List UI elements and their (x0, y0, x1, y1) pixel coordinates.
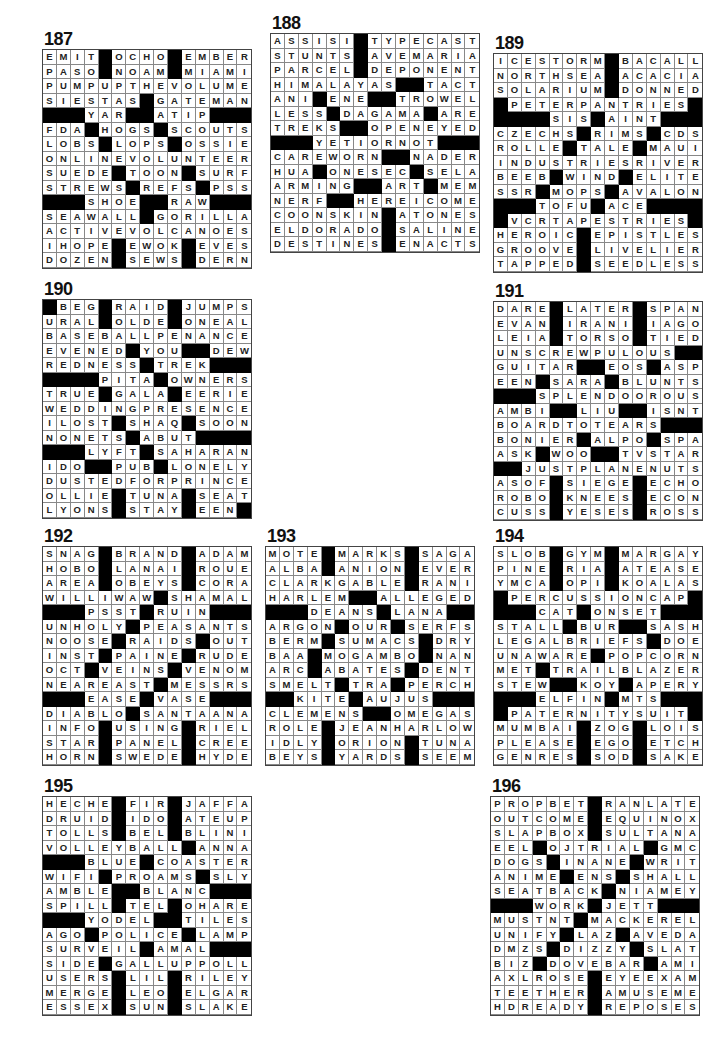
black-square (410, 78, 424, 93)
letter-cell: I (519, 928, 533, 943)
black-square (168, 913, 182, 928)
letter-cell: I (550, 228, 564, 243)
letter-cell: U (647, 707, 661, 722)
letter-cell: E (237, 1000, 251, 1015)
letter-cell: E (140, 750, 154, 765)
letter-cell: E (560, 797, 574, 812)
letter-cell: A (536, 634, 550, 649)
black-square (308, 663, 322, 678)
black-square (43, 605, 57, 620)
black-square (99, 315, 113, 330)
letter-cell: D (196, 253, 210, 268)
letter-cell: N (494, 69, 508, 84)
letter-cell: U (505, 812, 519, 827)
letter-cell: A (438, 34, 452, 49)
letter-cell: O (71, 634, 85, 649)
letter-cell: S (308, 750, 322, 765)
letter-cell: I (85, 224, 99, 239)
letter-cell: S (71, 329, 85, 344)
letter-cell: E (675, 663, 689, 678)
letter-cell: E (522, 678, 536, 693)
letter-cell: L (633, 375, 647, 390)
letter-cell: L (126, 315, 140, 330)
letter-cell: S (396, 223, 410, 238)
letter-cell: O (182, 79, 196, 94)
letter-cell: A (99, 108, 113, 123)
letter-cell: I (563, 83, 577, 98)
black-square (560, 928, 574, 943)
black-square (447, 605, 461, 620)
black-square (577, 360, 591, 375)
black-square (588, 899, 602, 914)
letter-cell: N (633, 112, 647, 127)
letter-cell: V (126, 152, 140, 167)
letter-cell: D (340, 107, 354, 122)
letter-cell: A (494, 404, 508, 419)
letter-cell: U (363, 620, 377, 635)
letter-cell: E (465, 223, 479, 238)
letter-cell: S (71, 1000, 85, 1015)
black-square (494, 591, 508, 606)
letter-cell: R (196, 562, 210, 577)
letter-cell: S (196, 137, 210, 152)
black-square (224, 942, 238, 957)
letter-cell: N (647, 462, 661, 477)
letter-cell: E (224, 721, 238, 736)
letter-cell: T (168, 108, 182, 123)
letter-cell: A (675, 447, 689, 462)
letter-cell: O (85, 721, 99, 736)
letter-cell: S (508, 185, 522, 200)
letter-cell: H (57, 239, 71, 254)
letter-cell: L (405, 591, 419, 606)
letter-cell: I (494, 54, 508, 69)
letter-cell: B (491, 957, 505, 972)
letter-cell: Y (460, 634, 474, 649)
letter-cell: N (661, 83, 675, 98)
letter-cell: A (447, 707, 461, 722)
letter-cell: C (536, 605, 550, 620)
letter-cell: A (280, 591, 294, 606)
letter-cell: T (126, 166, 140, 181)
letter-cell: S (685, 1000, 699, 1015)
letter-cell: A (433, 605, 447, 620)
letter-cell: I (57, 94, 71, 109)
letter-cell: A (224, 591, 238, 606)
black-square (550, 476, 564, 491)
letter-cell: S (43, 94, 57, 109)
letter-cell: D (605, 389, 619, 404)
black-square (237, 108, 251, 123)
letter-cell: O (619, 591, 633, 606)
letter-cell: G (433, 591, 447, 606)
letter-cell: W (99, 181, 113, 196)
letter-cell: T (460, 663, 474, 678)
letter-cell: D (419, 663, 433, 678)
letter-cell: R (126, 547, 140, 562)
letter-cell: A (382, 107, 396, 122)
letter-cell: S (563, 69, 577, 84)
letter-cell: E (224, 736, 238, 751)
letter-cell: B (547, 884, 561, 899)
letter-cell: T (327, 49, 341, 64)
letter-cell: A (57, 329, 71, 344)
letter-cell: N (675, 404, 689, 419)
letter-cell: O (71, 460, 85, 475)
letter-cell: S (237, 373, 251, 388)
letter-cell: L (280, 562, 294, 577)
letter-cell: P (605, 649, 619, 664)
letter-cell: S (405, 634, 419, 649)
letter-cell: S (140, 123, 154, 138)
black-square (354, 63, 368, 78)
letter-cell: E (647, 562, 661, 577)
black-square (322, 562, 336, 577)
letter-cell: R (419, 721, 433, 736)
letter-cell: E (465, 107, 479, 122)
letter-cell: R (602, 797, 616, 812)
letter-cell: N (327, 179, 341, 194)
black-square (647, 360, 661, 375)
black-square (675, 199, 689, 214)
letter-cell: U (43, 315, 57, 330)
letter-cell: Y (154, 576, 168, 591)
letter-cell: S (112, 692, 126, 707)
letter-cell: M (591, 83, 605, 98)
letter-cell: A (396, 208, 410, 223)
